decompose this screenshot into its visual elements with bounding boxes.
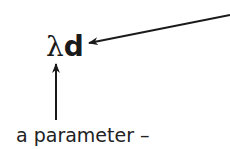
arrow-to-vector-icon [89,15,230,43]
caption-label: a parameter – [16,124,150,146]
